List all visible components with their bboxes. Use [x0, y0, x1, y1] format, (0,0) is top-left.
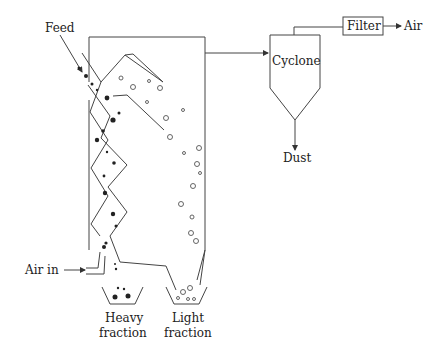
- heavy-fraction-label-1: Heavy: [105, 311, 144, 325]
- feed-label: Feed: [45, 21, 75, 35]
- zigzag-channel: [82, 53, 164, 262]
- heavy-fraction-label-2: fraction: [99, 326, 147, 340]
- cyclone-label: Cyclone: [272, 54, 321, 68]
- air-in-label: Air in: [24, 263, 59, 277]
- heavy-particles: [78, 67, 121, 271]
- light-fraction-label-2: fraction: [164, 326, 212, 340]
- filter-label: Filter: [347, 19, 381, 33]
- air-in-inlet: [64, 252, 105, 274]
- light-particles: [119, 76, 202, 301]
- light-fraction-label-1: Light: [172, 311, 204, 325]
- feed-arrow: [60, 35, 82, 72]
- air-out-label: Air: [403, 19, 423, 33]
- heavy-fraction-bin: [102, 287, 143, 304]
- dust-label: Dust: [283, 151, 312, 165]
- light-fraction-bin: [166, 287, 207, 304]
- air-classifier-diagram: Feed Air in: [0, 0, 448, 353]
- cyclone: [270, 27, 343, 150]
